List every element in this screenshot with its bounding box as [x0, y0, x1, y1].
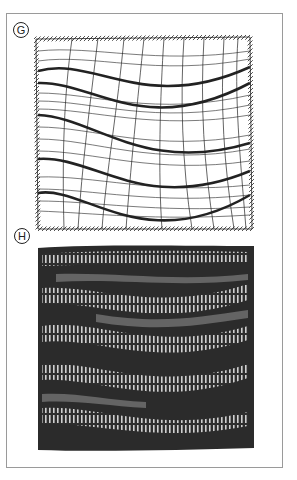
- panel-h-fabric-photo: [36, 244, 256, 452]
- panel-label-g: G: [13, 22, 29, 38]
- panel-label-h: H: [14, 228, 30, 244]
- panel-g-drawing: [34, 35, 254, 231]
